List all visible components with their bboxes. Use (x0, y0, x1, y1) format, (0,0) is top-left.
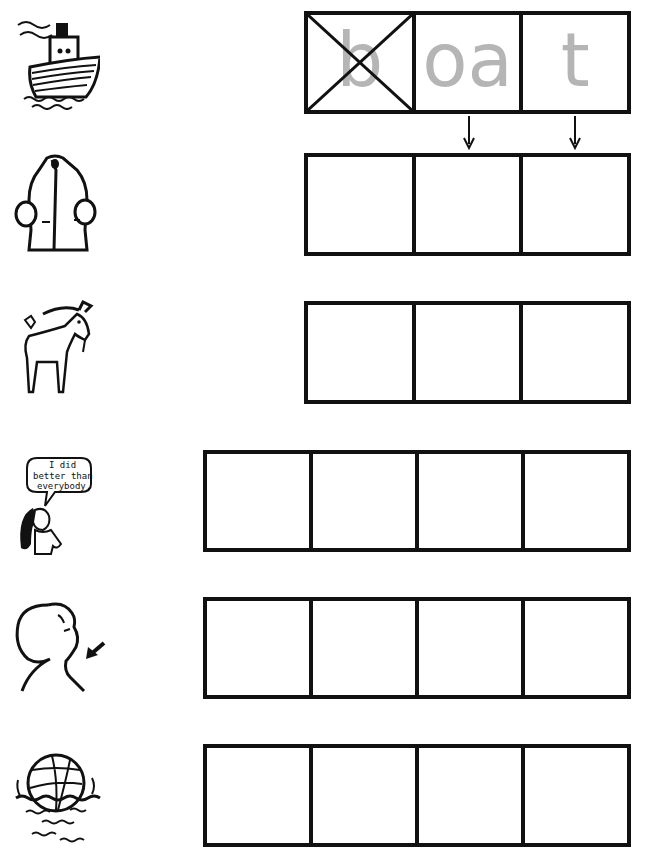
letter-box[interactable] (207, 454, 309, 548)
goat-picture (15, 300, 95, 405)
bubble-line-3: everybody. (37, 481, 91, 491)
throat-icon (8, 597, 108, 697)
boasting-girl-icon: I did better than everybody. (15, 452, 95, 557)
float-word-boxes (203, 744, 631, 847)
cross-out-icon (308, 15, 412, 110)
letter-box[interactable] (207, 748, 309, 843)
coat-icon (12, 152, 97, 257)
letter-box[interactable] (415, 601, 521, 695)
example-word-boxes: b oa t (304, 11, 631, 114)
letter-box[interactable] (308, 305, 412, 400)
letter-box[interactable] (521, 748, 627, 843)
coat-word-boxes (304, 153, 631, 256)
bubble-line-1: I did (49, 460, 76, 470)
floating-ball-icon (12, 748, 102, 853)
down-arrow-icon (568, 116, 582, 150)
letter-box[interactable] (415, 454, 521, 548)
letter-box[interactable] (415, 748, 521, 843)
letter-box[interactable] (521, 454, 627, 548)
float-picture (12, 748, 102, 853)
example-box-3: t (519, 15, 627, 110)
letter-box[interactable] (412, 157, 520, 252)
bubble-line-2: better than (33, 471, 93, 481)
letter-box[interactable] (309, 748, 415, 843)
boat-picture (10, 5, 100, 110)
goat-word-boxes (304, 301, 631, 404)
letter-box[interactable] (519, 305, 627, 400)
example-box-1: b (308, 15, 412, 110)
throat-picture (8, 597, 108, 697)
down-arrow-icon (462, 116, 476, 150)
letter-box[interactable] (412, 305, 520, 400)
letter-box[interactable] (309, 601, 415, 695)
letter-box[interactable] (308, 157, 412, 252)
throat-word-boxes (203, 597, 631, 699)
goat-icon (15, 300, 95, 405)
example-letter-2: oa (422, 23, 513, 97)
coat-picture (12, 152, 97, 257)
letter-box[interactable] (521, 601, 627, 695)
boast-picture: I did better than everybody. (15, 452, 95, 557)
letter-box[interactable] (519, 157, 627, 252)
example-box-2: oa (412, 15, 520, 110)
example-letter-3: t (561, 23, 590, 97)
boat-icon (10, 5, 100, 110)
letter-box[interactable] (309, 454, 415, 548)
letter-box[interactable] (207, 601, 309, 695)
boast-word-boxes (203, 450, 631, 552)
